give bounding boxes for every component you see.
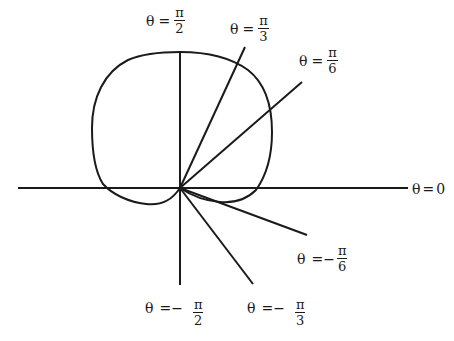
label-theta-neg-pi-6: θ=−π6 [297, 244, 347, 273]
theta-symbol: θ [297, 252, 305, 266]
ray-theta-pi-6 [180, 82, 302, 188]
polar-diagram [0, 0, 454, 341]
label-theta-neg-pi-3: θ=−π3 [247, 300, 305, 327]
theta-symbol: θ [146, 14, 154, 28]
fraction-denominator: 3 [259, 29, 267, 43]
angle-value: 0 [436, 182, 445, 196]
fraction-pi-over-3: π3 [295, 298, 306, 327]
fraction-numerator: π [174, 6, 185, 21]
theta-symbol: θ [299, 54, 307, 68]
label-theta-0: θ=0 [412, 181, 445, 196]
equals-sign: = [311, 54, 323, 68]
equals-sign: = [158, 14, 170, 28]
label-theta-neg-pi-2: θ=−π2 [145, 300, 203, 327]
label-theta-pi-6: θ=π6 [299, 46, 338, 75]
fraction-pi-over-2: π2 [174, 6, 185, 35]
theta-symbol: θ [247, 301, 255, 315]
theta-symbol: θ [145, 301, 153, 315]
equals-minus-sign: =− [159, 301, 182, 315]
fraction-numerator: π [337, 244, 348, 259]
fraction-pi-over-6: π6 [337, 244, 348, 273]
fraction-numerator: π [193, 298, 204, 313]
fraction-denominator: 2 [194, 313, 202, 327]
fraction-numerator: π [295, 298, 306, 313]
fraction-denominator: 2 [175, 21, 183, 35]
fraction-numerator: π [327, 46, 338, 61]
equals-sign: = [242, 22, 254, 36]
fraction-pi-over-6: π6 [327, 46, 338, 75]
fraction-denominator: 6 [338, 259, 346, 273]
ray-theta-pi-3 [180, 47, 245, 188]
theta-symbol: θ [230, 22, 238, 36]
label-theta-pi-2: θ=π2 [146, 6, 185, 35]
fraction-denominator: 6 [328, 61, 336, 75]
fraction-pi-over-2: π2 [193, 298, 204, 327]
equals-sign: = [422, 182, 434, 196]
label-theta-pi-3: θ=π3 [230, 14, 269, 43]
equals-minus-sign: =− [261, 301, 284, 315]
fraction-denominator: 3 [296, 313, 304, 327]
fraction-pi-over-3: π3 [258, 14, 269, 43]
equals-minus-sign: =− [311, 252, 334, 266]
fraction-numerator: π [258, 14, 269, 29]
theta-symbol: θ [412, 182, 420, 196]
